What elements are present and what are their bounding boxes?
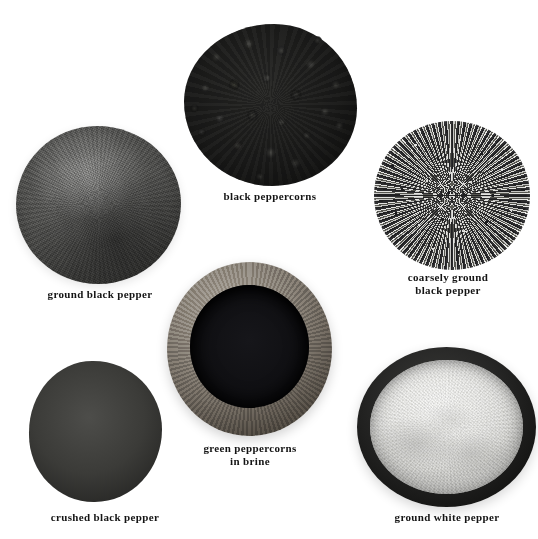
- dark-bowl-inner-shadow: [370, 360, 524, 494]
- caption-black-peppercorns: black peppercorns: [190, 190, 350, 203]
- caption-coarsely-ground-black-pepper: coarsely ground black pepper: [378, 271, 518, 297]
- wooden-bowl-interior: [190, 285, 309, 409]
- specimen-coarsely-ground-black-pepper: [377, 124, 527, 267]
- specimen-black-peppercorns: [184, 24, 357, 186]
- crushed-black-pepper-edge: [24, 356, 167, 507]
- specimen-crushed-black-pepper: [29, 361, 162, 502]
- caption-ground-white-pepper: ground white pepper: [367, 511, 527, 524]
- specimen-green-peppercorns-in-brine: [167, 262, 332, 436]
- caption-green-peppercorns-in-brine: green peppercorns in brine: [170, 442, 330, 468]
- caption-ground-black-pepper: ground black pepper: [20, 288, 180, 301]
- pepper-varieties-plate: ground black pepper black peppercorns co…: [0, 0, 538, 539]
- specimen-ground-black-pepper: [16, 126, 181, 284]
- dark-bowl-interior: [370, 360, 524, 494]
- coarsely-ground-pepper-edge: [371, 118, 533, 273]
- ground-black-pepper-edge: [14, 124, 183, 286]
- wooden-bowl-inner-shadow: [190, 285, 309, 409]
- caption-crushed-black-pepper: crushed black pepper: [25, 511, 185, 524]
- specimen-ground-white-pepper: [357, 347, 536, 507]
- black-peppercorns-texture: [184, 24, 357, 186]
